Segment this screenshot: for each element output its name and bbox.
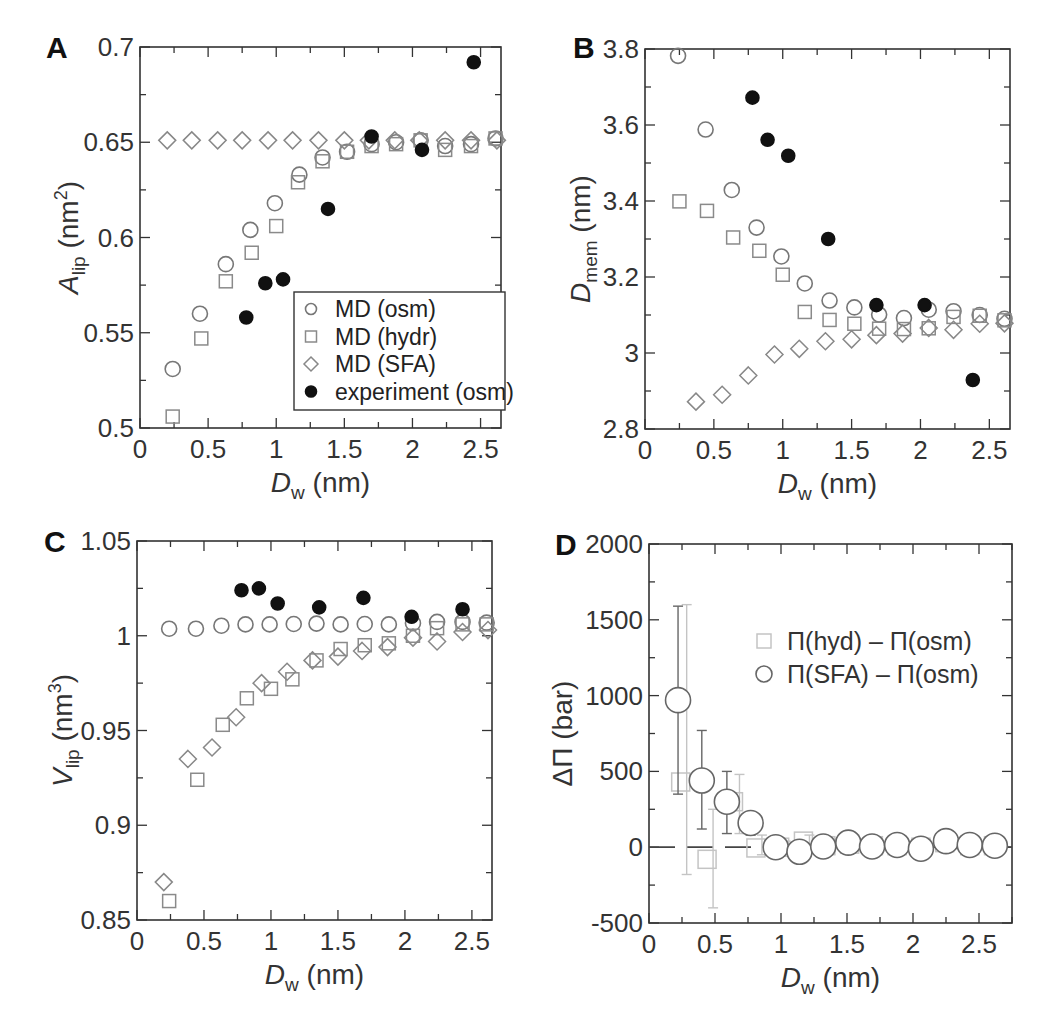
data-point bbox=[245, 246, 258, 259]
data-point bbox=[336, 132, 353, 149]
data-point bbox=[219, 275, 232, 288]
data-point bbox=[379, 639, 396, 656]
data-point bbox=[822, 233, 835, 246]
x-tick-label: 1 bbox=[774, 929, 788, 959]
data-point bbox=[467, 56, 480, 69]
panel-letter: D bbox=[555, 528, 577, 561]
data-point bbox=[179, 750, 196, 767]
y-axis-superscript: 2 bbox=[51, 190, 71, 200]
x-tick-label: 0.5 bbox=[696, 435, 732, 465]
data-point bbox=[191, 773, 204, 786]
data-point bbox=[823, 313, 836, 326]
x-axis-units: (nm) bbox=[815, 962, 880, 993]
y-axis-units: (nm bbox=[565, 184, 596, 240]
data-point bbox=[163, 895, 176, 908]
data-point bbox=[365, 130, 378, 143]
data-point bbox=[870, 299, 883, 312]
data-point bbox=[934, 829, 959, 854]
data-point bbox=[270, 220, 283, 233]
data-point bbox=[357, 617, 372, 632]
data-point bbox=[700, 204, 713, 217]
panel-letter: A bbox=[46, 31, 68, 64]
x-tick-label: 2 bbox=[906, 929, 920, 959]
data-point bbox=[253, 675, 270, 692]
y-axis-label: Alip (nm2) bbox=[51, 181, 89, 296]
x-axis-symbol: D bbox=[265, 959, 285, 990]
series-filled-circle bbox=[240, 56, 480, 324]
data-point bbox=[797, 276, 812, 291]
y-tick-label: 1000 bbox=[585, 681, 643, 711]
x-tick-label: 2 bbox=[405, 434, 419, 464]
data-point bbox=[946, 304, 961, 319]
x-axis-subscript: w bbox=[800, 977, 815, 998]
legend-label: Π(hyd) – Π(osm) bbox=[787, 627, 972, 655]
series-diamond bbox=[155, 622, 496, 891]
data-point bbox=[262, 617, 277, 632]
data-point bbox=[766, 346, 783, 363]
data-point bbox=[284, 132, 301, 149]
x-tick-label: 0.5 bbox=[186, 926, 222, 956]
data-point bbox=[698, 122, 713, 137]
data-point bbox=[267, 196, 282, 211]
x-tick-label: 2.5 bbox=[454, 926, 490, 956]
y-tick-label: 0 bbox=[629, 832, 643, 862]
y-tick-label: 2000 bbox=[585, 529, 643, 559]
data-point bbox=[811, 834, 836, 859]
y-axis-label: Dmem (nm) bbox=[565, 175, 601, 303]
data-point bbox=[277, 273, 290, 286]
series-filled-circle bbox=[746, 91, 979, 386]
data-point bbox=[761, 133, 774, 146]
data-point bbox=[966, 373, 979, 386]
data-point bbox=[243, 222, 258, 237]
legend-label: Π(SFA) – Π(osm) bbox=[787, 660, 979, 688]
x-tick-label: 1.5 bbox=[829, 929, 865, 959]
x-axis-units: (nm) bbox=[812, 468, 877, 499]
data-point bbox=[415, 143, 428, 156]
data-point bbox=[329, 648, 346, 665]
x-tick-label: 0.5 bbox=[697, 929, 733, 959]
data-point bbox=[333, 617, 348, 632]
data-point bbox=[204, 739, 221, 756]
data-point bbox=[836, 830, 861, 855]
data-point bbox=[235, 584, 248, 597]
data-point bbox=[216, 718, 229, 731]
data-point bbox=[240, 692, 253, 705]
y-tick-label: 0.6 bbox=[98, 223, 134, 253]
data-point bbox=[405, 610, 418, 623]
x-axis-label: Dw (nm) bbox=[778, 468, 877, 504]
figure: A00.511.522.50.50.550.60.650.7Dw (nm)Ali… bbox=[0, 0, 1055, 1019]
x-axis-subscript: w bbox=[284, 974, 299, 995]
legend-label: MD (osm) bbox=[335, 296, 436, 322]
legend-label: experiment (osm) bbox=[335, 379, 514, 405]
x-axis-symbol: D bbox=[271, 467, 291, 498]
y-tick-label: 3.6 bbox=[603, 110, 639, 140]
x-tick-label: 0.5 bbox=[190, 434, 226, 464]
data-point bbox=[727, 231, 740, 244]
data-point bbox=[188, 621, 203, 636]
data-point bbox=[860, 834, 885, 859]
y-axis-symbol: D bbox=[565, 283, 596, 303]
y-axis-paren: ) bbox=[565, 175, 596, 184]
y-tick-label: 0.65 bbox=[83, 127, 134, 157]
data-point bbox=[195, 332, 208, 345]
data-point bbox=[357, 591, 370, 604]
y-axis-subscript: lip bbox=[62, 749, 83, 768]
y-tick-label: 3.2 bbox=[603, 262, 639, 292]
legend-marker-circle bbox=[756, 666, 772, 682]
data-point bbox=[234, 132, 251, 149]
y-axis-paren: ) bbox=[47, 674, 78, 683]
y-axis-label: ΔΠ (bar) bbox=[547, 681, 578, 787]
data-point bbox=[316, 155, 329, 168]
x-tick-label: 1 bbox=[264, 926, 278, 956]
data-point bbox=[687, 393, 704, 410]
data-point bbox=[776, 268, 789, 281]
data-point bbox=[957, 832, 982, 857]
series-circle bbox=[671, 48, 1012, 326]
data-point bbox=[908, 836, 933, 861]
data-point bbox=[740, 367, 757, 384]
y-axis-superscript: 3 bbox=[45, 683, 65, 693]
data-point bbox=[166, 410, 179, 423]
data-point bbox=[455, 614, 470, 629]
data-point bbox=[822, 293, 837, 308]
series-square bbox=[163, 618, 493, 908]
